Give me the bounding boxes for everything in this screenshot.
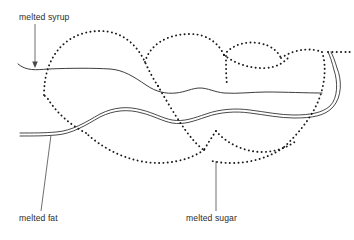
sugar-dotted-lobe-upper-left [44, 31, 158, 95]
leader-lines [32, 24, 216, 211]
melted-fat-line [20, 52, 340, 136]
sugar-dotted-lens-lower [224, 55, 288, 68]
sugar-dotted-left-side [44, 95, 86, 133]
sugar-dotted-notch [204, 131, 216, 150]
sugar-dotted-lobe-upper-right-b [281, 50, 322, 58]
syrup-leader-arrowhead [32, 62, 38, 69]
label-melted-fat: melted fat [19, 213, 58, 223]
sugar-dotted-bottom-left [86, 133, 204, 163]
diagram-root: melted syrup melted fat melted sugar [0, 0, 354, 240]
sugar-dotted-spur-down [226, 56, 227, 85]
syrup-curve [18, 64, 322, 93]
sugar-dotted-right-side [283, 52, 325, 148]
label-melted-sugar: melted sugar [186, 213, 237, 223]
melted-syrup-line [18, 64, 322, 93]
label-melted-syrup: melted syrup [19, 12, 70, 22]
fat-rail-lower [20, 52, 340, 136]
sugar-dotted-bottom-inner [216, 131, 296, 152]
diagram-canvas: melted syrup melted fat melted sugar [0, 0, 354, 240]
sugar-dotted-bottom-right [212, 148, 283, 163]
sugar-dotted-lobe-upper-middle [145, 34, 224, 62]
sugar-dotted-lobe-upper-right-a [224, 43, 281, 59]
fat-leader-line [41, 135, 51, 211]
melted-sugar-outline [44, 31, 350, 163]
